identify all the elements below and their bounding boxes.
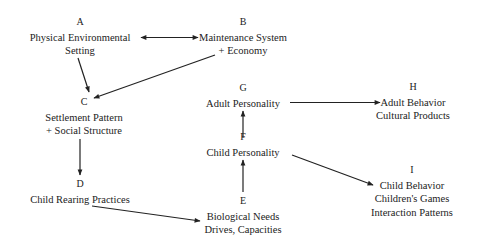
edge-d-e xyxy=(92,206,200,221)
node-h-line-2: Cultural Products xyxy=(376,109,450,123)
diagram-canvas: A Physical Environmental Setting B Maint… xyxy=(0,0,483,248)
node-b-line-2: + Economy xyxy=(199,44,287,58)
node-h: H Adult Behavior Cultural Products xyxy=(376,80,450,123)
node-c-line-2: + Social Structure xyxy=(45,124,122,138)
node-f: F Child Personality xyxy=(206,130,279,159)
node-d-letter: D xyxy=(30,177,130,191)
node-e-line-1: Biological Needs xyxy=(205,210,282,224)
edge-f-i xyxy=(292,155,373,185)
node-i: I Child Behavior Children's Games Intera… xyxy=(371,163,453,219)
node-g-letter: G xyxy=(206,81,280,95)
node-i-line-1: Child Behavior xyxy=(371,179,453,193)
node-a: A Physical Environmental Setting xyxy=(30,15,131,58)
node-i-line-2: Children's Games xyxy=(371,192,453,206)
node-i-letter: I xyxy=(371,163,453,177)
node-c: C Settlement Pattern + Social Structure xyxy=(45,95,122,138)
node-h-line-1: Adult Behavior xyxy=(376,96,450,110)
edge-b-c xyxy=(94,55,215,98)
node-a-line-1: Physical Environmental xyxy=(30,31,131,45)
node-a-line-2: Setting xyxy=(30,44,131,58)
node-b: B Maintenance System + Economy xyxy=(199,15,287,58)
node-a-letter: A xyxy=(30,15,131,29)
node-h-letter: H xyxy=(376,80,450,94)
edge-a-c xyxy=(78,58,89,92)
node-f-line-1: Child Personality xyxy=(206,146,279,160)
node-f-letter: F xyxy=(206,130,279,144)
node-i-line-3: Interaction Patterns xyxy=(371,206,453,220)
node-g-line-1: Adult Personality xyxy=(206,97,280,111)
node-b-letter: B xyxy=(199,15,287,29)
node-b-line-1: Maintenance System xyxy=(199,31,287,45)
node-e-letter: E xyxy=(205,194,282,208)
node-d: D Child Rearing Practices xyxy=(30,177,130,206)
node-c-line-1: Settlement Pattern xyxy=(45,111,122,125)
node-g: G Adult Personality xyxy=(206,81,280,110)
node-e: E Biological Needs Drives, Capacities xyxy=(205,194,282,237)
node-e-line-2: Drives, Capacities xyxy=(205,223,282,237)
node-c-letter: C xyxy=(45,95,122,109)
node-d-line-1: Child Rearing Practices xyxy=(30,193,130,207)
